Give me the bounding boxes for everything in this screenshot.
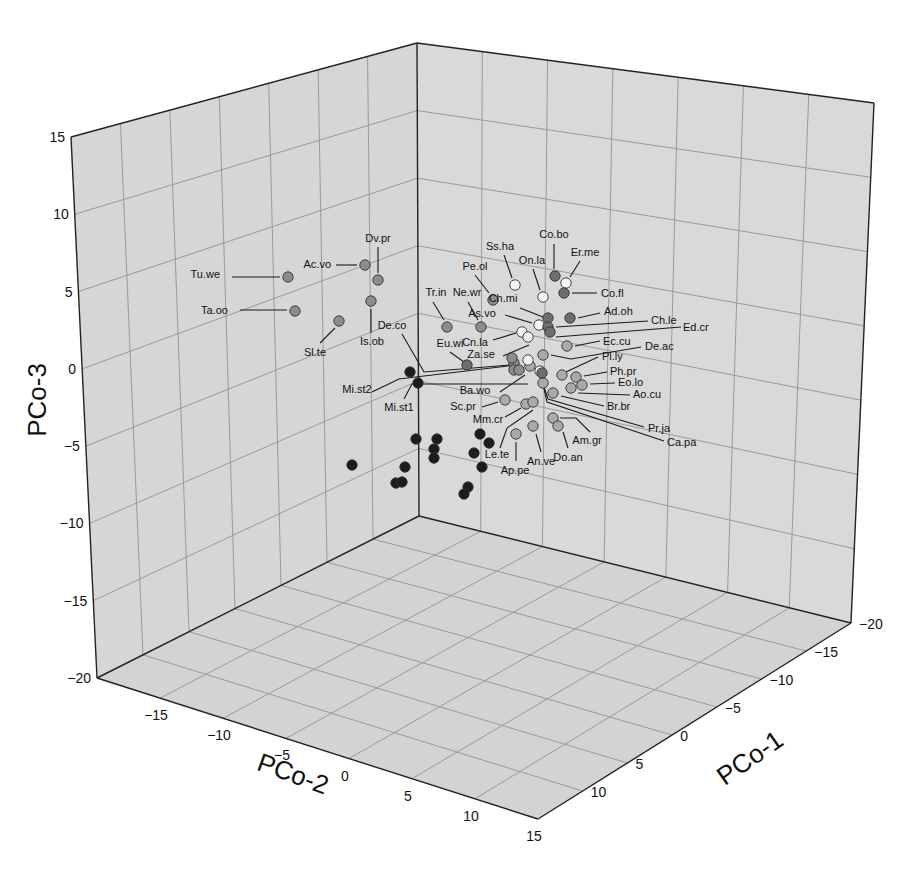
tick-label: −20 — [67, 670, 91, 686]
data-point-eu-wi — [462, 360, 472, 370]
data-point-de-co — [507, 353, 517, 363]
tick-label: −10 — [207, 727, 231, 743]
data-point-tr-in — [442, 322, 452, 332]
data-point — [475, 429, 485, 439]
point-label: Br.br — [607, 400, 631, 412]
point-label: Ta.oo — [201, 304, 228, 316]
point-label: Le.te — [485, 448, 509, 460]
tick-label: −15 — [144, 707, 168, 723]
data-point-ed-cr — [545, 327, 555, 337]
tick-label: −15 — [814, 644, 838, 660]
point-label: De.ac — [645, 340, 674, 352]
tick-label: 15 — [526, 828, 542, 844]
data-point-co-fl — [559, 288, 569, 298]
z-axis-title: PCo-3 — [22, 363, 52, 437]
point-label: As.vo — [468, 307, 496, 319]
point-label: Am.gr — [572, 434, 602, 446]
point-label: Ed.cr — [683, 321, 709, 333]
data-point — [459, 489, 469, 499]
tick-label: 0 — [680, 728, 688, 744]
data-point-mi-st1 — [413, 378, 423, 388]
data-point-mi-st2 — [405, 367, 415, 377]
data-point-ca-pa — [537, 368, 547, 378]
point-label: Ap.pe — [501, 464, 530, 476]
tick-label: 10 — [591, 784, 607, 800]
tick-label: −10 — [770, 672, 794, 688]
point-label: Mi.st2 — [342, 383, 371, 395]
point-label: Do.an — [553, 451, 582, 463]
point-label: Eu.wi — [437, 337, 464, 349]
point-label: Pe.ol — [462, 260, 487, 272]
point-label: Za.se — [467, 348, 495, 360]
data-point — [347, 460, 357, 470]
data-point — [523, 355, 533, 365]
data-point-ad-oh — [565, 313, 575, 323]
tick-label: 15 — [49, 129, 65, 145]
point-label: Cn.la — [462, 336, 489, 348]
data-point — [484, 438, 494, 448]
tick-label: 0 — [68, 361, 76, 377]
data-point-de-ac — [538, 350, 548, 360]
data-point-sc-pr — [500, 395, 510, 405]
data-point-an-ve — [528, 421, 538, 431]
point-label: Dv.pr — [365, 232, 391, 244]
tick-label: −20 — [859, 616, 883, 632]
tick-label: 5 — [65, 284, 73, 300]
tick-label: −5 — [64, 438, 80, 454]
data-point-za-se — [523, 332, 533, 342]
data-point — [400, 462, 410, 472]
data-point — [477, 462, 487, 472]
point-label: Sl.te — [304, 346, 326, 358]
data-point — [432, 434, 442, 444]
point-label: Ad.oh — [604, 305, 633, 317]
point-label: Co.bo — [539, 228, 568, 240]
data-point-is-ob — [366, 296, 376, 306]
tick-label: 10 — [463, 808, 479, 824]
data-point — [429, 453, 439, 463]
point-label: Ch.mi — [489, 292, 518, 304]
data-point-er-me — [561, 278, 571, 288]
point-label: Pr.ja — [648, 422, 671, 434]
point-label: De.co — [378, 319, 407, 331]
tick-label: −10 — [60, 515, 84, 531]
point-label: Eo.lo — [618, 376, 643, 388]
data-point-ap-pe — [511, 429, 521, 439]
tick-label: 5 — [635, 756, 643, 772]
data-point-ta-oo — [290, 306, 300, 316]
tick-label: 5 — [404, 788, 412, 804]
data-point — [411, 434, 421, 444]
point-label: Ss.ha — [486, 240, 515, 252]
data-point-le-te — [528, 397, 538, 407]
tick-label: −5 — [725, 700, 741, 716]
data-point-ss-ha — [510, 280, 520, 290]
point-label: Ne.wr — [453, 286, 482, 298]
data-point-tu-we — [283, 272, 293, 282]
tick-label: 10 — [53, 206, 69, 222]
point-label: Ao.cu — [633, 388, 661, 400]
y-axis-title: PCo-2 — [253, 747, 333, 800]
point-label: Is.ob — [360, 335, 384, 347]
data-point-pl-ly — [557, 370, 567, 380]
point-label: Ca.pa — [667, 436, 697, 448]
tick-label: −15 — [64, 593, 88, 609]
point-label: Ac.vo — [303, 258, 331, 270]
point-label: Co.fl — [601, 287, 624, 299]
data-point-do-an — [553, 421, 563, 431]
tick-label: 0 — [341, 768, 349, 784]
point-label: Ec.cu — [603, 335, 631, 347]
point-label: Mi.st1 — [384, 401, 413, 413]
data-point — [538, 378, 548, 388]
point-label: An.ve — [527, 455, 555, 467]
point-label: Mm.cr — [473, 413, 504, 425]
point-label: Ch.le — [651, 314, 677, 326]
pco-3d-scatter-chart: Tu.weTa.ooAc.voDv.prIs.obSl.teTr.inNe.wr… — [0, 0, 914, 869]
data-point-ec-cu — [562, 341, 572, 351]
x-axis-title: PCo-1 — [711, 724, 789, 791]
data-point — [397, 477, 407, 487]
point-label: Pl.ly — [602, 350, 623, 362]
data-point-sl-te — [334, 316, 344, 326]
data-point-ac-vo — [360, 260, 370, 270]
point-label: Tr.in — [426, 286, 447, 298]
point-label: Ba.wo — [460, 384, 491, 396]
point-label: Tu.we — [190, 268, 220, 280]
